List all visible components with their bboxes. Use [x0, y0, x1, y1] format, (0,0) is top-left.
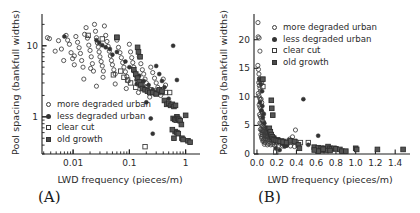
x-tick-label: 1.2	[368, 158, 382, 168]
legend-item-filled-square: old growth	[270, 57, 377, 69]
panel-a-y-axis-label: Pool spacing (bankfull widths)	[10, 10, 21, 155]
filled-square-icon	[270, 58, 279, 67]
panel-b-y-axis-label: Pool spacing (bankfull widths)	[218, 10, 229, 155]
legend-item-label: old growth	[57, 134, 103, 146]
x-tick-label: 0.4	[289, 158, 303, 168]
panel-a-x-axis-label: LWD frequency (pieces/m)	[30, 174, 210, 185]
legend-item-label: old growth	[283, 57, 329, 69]
legend-item-open-circle: more degraded urban	[270, 22, 377, 34]
filled-circle-icon	[44, 112, 53, 121]
open-circle-icon	[270, 23, 279, 32]
x-tick-label: 1	[183, 158, 189, 168]
legend-item-open-square: clear cut	[44, 122, 151, 134]
legend-item-open-circle: more degraded urban	[44, 99, 151, 111]
x-tick-label: 0.01	[63, 158, 83, 168]
x-tick-label: 1.4	[388, 158, 402, 168]
panel-b-x-axis-label: LWD frequency (pieces/m)	[240, 174, 420, 185]
panel-a: Pool spacing (bankfull widths) 0.010.111…	[0, 0, 210, 213]
open-square-icon	[44, 123, 53, 132]
panel-b-caption: (B)	[258, 188, 281, 206]
legend-item-label: more degraded urban	[283, 22, 377, 34]
x-tick-label: 1.0	[349, 158, 363, 168]
legend-item-label: less degraded urban	[57, 111, 145, 123]
x-tick-label: 0.0	[250, 158, 264, 168]
legend-item-label: more degraded urban	[57, 99, 151, 111]
legend-item-label: less degraded urban	[283, 34, 371, 46]
panel-a-legend: more degraded urbanless degraded urbancl…	[44, 99, 151, 145]
y-tick-label: 20	[239, 35, 250, 45]
legend-item-label: clear cut	[57, 122, 94, 134]
legend-item-label: clear cut	[283, 45, 320, 57]
legend-item-filled-circle: less degraded urban	[270, 34, 377, 46]
y-tick-label: 10	[239, 92, 250, 102]
x-tick-label: 0.2	[270, 158, 284, 168]
legend-item-filled-circle: less degraded urban	[44, 111, 151, 123]
filled-square-icon	[44, 135, 53, 144]
x-tick-label: 0.1	[122, 158, 136, 168]
x-tick-label: 0.6	[309, 158, 323, 168]
figure-pool-spacing-vs-lwd: Pool spacing (bankfull widths) 0.010.111…	[0, 0, 420, 213]
panel-b-legend: more degraded urbanless degraded urbancl…	[270, 22, 377, 68]
filled-circle-icon	[270, 35, 279, 44]
y-tick-label: 1	[32, 112, 38, 122]
y-tick-label: 15	[239, 63, 250, 73]
legend-item-open-square: clear cut	[270, 45, 377, 57]
y-tick-label: 5	[244, 120, 250, 130]
panel-a-caption: (A)	[38, 188, 61, 206]
legend-item-filled-square: old growth	[44, 134, 151, 146]
y-tick-label: 10	[27, 41, 38, 51]
y-tick-label: 0	[244, 149, 250, 159]
open-square-icon	[270, 46, 279, 55]
panel-b: Pool spacing (bankfull widths) 0.00.20.4…	[210, 0, 420, 213]
series-filled-square	[261, 77, 406, 154]
open-circle-icon	[44, 100, 53, 109]
x-tick-label: 0.8	[329, 158, 343, 168]
